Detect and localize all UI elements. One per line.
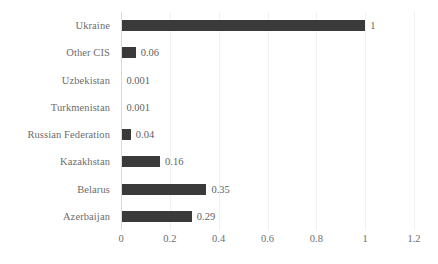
bar[interactable]: [121, 184, 206, 195]
plot-area: 10.060.0010.0010.040.160.350.29: [121, 12, 414, 230]
category-label: Uzbekistan: [62, 75, 110, 86]
category-label-cell: Uzbekistan: [0, 67, 117, 94]
category-label-cell: Azerbaijan: [0, 203, 117, 230]
x-tick-label: 0: [118, 233, 123, 244]
category-label-cell: Kazakhstan: [0, 148, 117, 175]
bar-row: 0.001: [121, 67, 414, 94]
bar[interactable]: [121, 211, 192, 222]
bar-value-label: 1: [370, 20, 375, 31]
bar-value-label: 0.29: [197, 211, 215, 222]
bar-value-label: 0.001: [126, 102, 150, 113]
category-label: Belarus: [77, 184, 110, 195]
category-label-cell: Turkmenistan: [0, 94, 117, 121]
category-axis: UkraineOther CISUzbekistanTurkmenistanRu…: [0, 12, 117, 230]
bar-row: 0.29: [121, 203, 414, 230]
bar-row: 0.16: [121, 148, 414, 175]
x-tick-label: 1.2: [407, 233, 420, 244]
x-tick-label: 0.4: [212, 233, 225, 244]
x-tick-label: 1: [363, 233, 368, 244]
bar-value-label: 0.06: [141, 47, 159, 58]
bar-row: 0.04: [121, 121, 414, 148]
category-label-cell: Other CIS: [0, 39, 117, 66]
bar-value-label: 0.16: [165, 156, 183, 167]
bar-row: 0.06: [121, 39, 414, 66]
bar-row: 0.35: [121, 176, 414, 203]
bar-row: 1: [121, 12, 414, 39]
category-label: Russian Federation: [27, 129, 110, 140]
bar-chart: UkraineOther CISUzbekistanTurkmenistanRu…: [0, 0, 438, 264]
category-label: Kazakhstan: [60, 156, 110, 167]
x-tick-label: 0.8: [310, 233, 323, 244]
category-label: Ukraine: [75, 20, 110, 31]
category-label: Other CIS: [66, 47, 110, 58]
category-label: Azerbaijan: [63, 211, 110, 222]
gridline: [414, 12, 415, 230]
bar[interactable]: [121, 20, 365, 31]
bar-value-label: 0.35: [211, 184, 229, 195]
category-label-cell: Ukraine: [0, 12, 117, 39]
x-axis-tick-labels: 00.20.40.60.811.2: [121, 233, 414, 251]
bar[interactable]: [121, 156, 160, 167]
bars-layer: 10.060.0010.0010.040.160.350.29: [121, 12, 414, 230]
bar[interactable]: [121, 129, 131, 140]
category-label: Turkmenistan: [51, 102, 110, 113]
bar[interactable]: [121, 47, 136, 58]
x-tick-label: 0.6: [261, 233, 274, 244]
bar-row: 0.001: [121, 94, 414, 121]
value-axis-line: [121, 12, 122, 230]
category-label-cell: Belarus: [0, 176, 117, 203]
bar-value-label: 0.04: [136, 129, 154, 140]
bar-value-label: 0.001: [126, 75, 150, 86]
category-label-cell: Russian Federation: [0, 121, 117, 148]
x-tick-label: 0.2: [163, 233, 176, 244]
